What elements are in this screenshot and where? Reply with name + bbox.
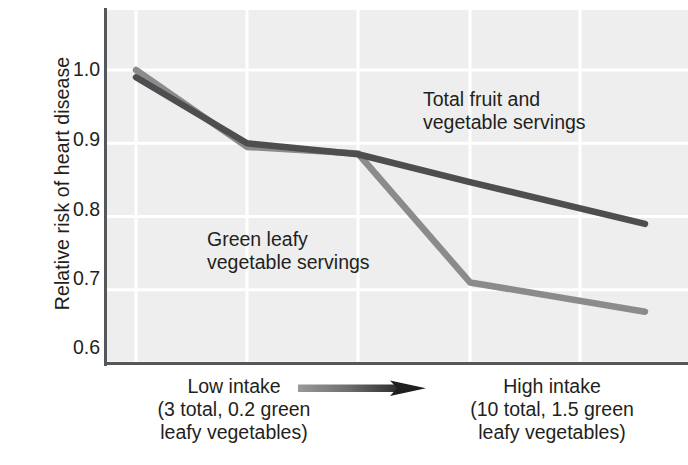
series-label-green-leafy-vegetable: Green leafy vegetable servings [207,228,370,273]
y-axis-tick-labels: 1.0 0.9 0.8 0.7 0.6 [46,0,100,465]
y-axis-line [104,8,107,366]
x-axis-line [104,362,688,365]
y-tick-label: 0.7 [48,269,100,289]
x-axis-caption-high-intake: High intake (10 total, 1.5 green leafy v… [428,375,676,443]
plot-area [106,10,688,363]
y-tick-label: 0.6 [48,338,100,358]
series-lines [106,10,688,363]
chart-figure: Relative risk of heart disease 1.0 0.9 0… [0,0,688,465]
series-label-total-fruit-and-vegetable: Total fruit and vegetable servings [423,88,586,133]
y-tick-label: 0.9 [48,130,100,150]
y-tick-label: 0.8 [48,200,100,220]
intake-increasing-arrow-icon [298,378,426,400]
y-tick-label: 1.0 [48,60,100,80]
